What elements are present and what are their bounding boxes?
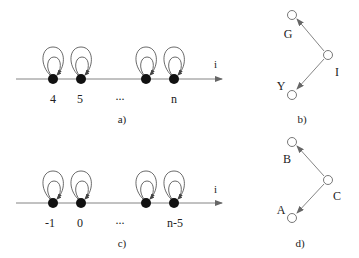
node-label: n	[171, 92, 177, 106]
edge-c-b	[297, 146, 324, 176]
node-label: 0	[77, 216, 83, 230]
panel-d: B C A d)	[277, 138, 341, 251]
caption: c)	[118, 237, 127, 250]
node-label-a: A	[277, 203, 286, 217]
node-with-self-loops	[164, 171, 184, 208]
node-label-g: G	[284, 27, 293, 41]
axis-label: i	[214, 183, 217, 195]
node-label-i: I	[335, 65, 339, 79]
node-label-y: Y	[277, 79, 286, 93]
node-g	[288, 11, 297, 20]
ellipsis: ...	[116, 89, 125, 103]
node-with-self-loops	[71, 47, 91, 84]
panel-c: i -1 0 ... n-5 c)	[16, 171, 222, 250]
node-with-self-loops	[43, 171, 63, 208]
node-with-self-loops	[43, 47, 63, 84]
edge-i-g	[297, 19, 324, 51]
axis-label: i	[214, 58, 217, 70]
caption: b)	[297, 113, 307, 126]
node-with-self-loops	[71, 171, 91, 208]
node-y	[288, 91, 297, 100]
edge-c-a	[297, 184, 324, 213]
node-label: -1	[45, 216, 55, 230]
node-with-self-loops	[136, 47, 156, 84]
ellipsis: ...	[116, 213, 125, 227]
panel-b: G I Y b)	[277, 11, 339, 127]
panel-a: i 4 5 ... n a)	[16, 47, 222, 126]
node-label: 4	[50, 92, 56, 106]
node-label: n-5	[167, 216, 183, 230]
node-a	[288, 214, 297, 223]
node-label-b: B	[283, 152, 291, 166]
node-i	[324, 51, 333, 60]
node-with-self-loops	[164, 47, 184, 84]
caption: d)	[295, 237, 305, 250]
figure: i 4 5 ... n a) G I Y b) i -1 0 ... n-5 c…	[0, 0, 359, 258]
node-c	[324, 176, 333, 185]
node-label: 5	[77, 92, 83, 106]
caption: a)	[118, 113, 127, 126]
node-b	[288, 138, 297, 147]
node-label-c: C	[333, 189, 341, 203]
edge-i-y	[297, 59, 324, 89]
node-with-self-loops	[136, 171, 156, 208]
